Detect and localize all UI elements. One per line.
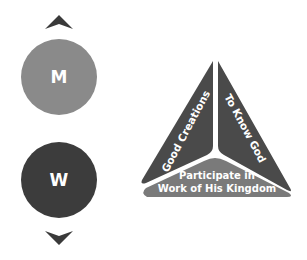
participate-label-line1: Participate in: [179, 170, 255, 181]
triangle-diagram: Good Creations To Know God Participate i…: [0, 0, 307, 260]
participate-label-line2: Work of His Kingdom: [158, 183, 276, 194]
